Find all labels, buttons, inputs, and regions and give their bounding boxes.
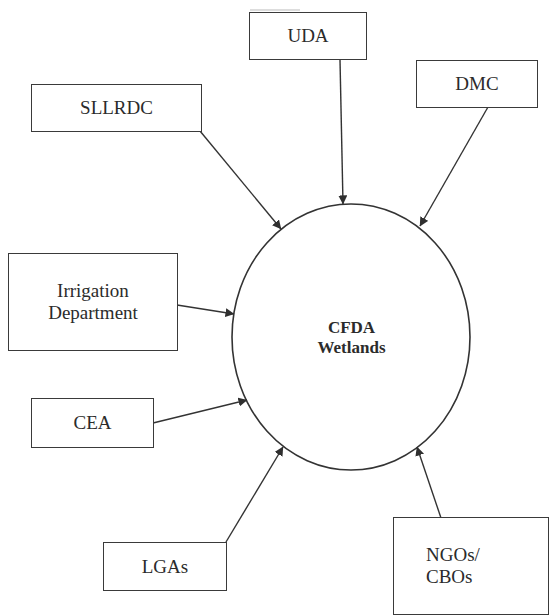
node-irrigation-label-line2: Department	[48, 302, 138, 324]
node-ngos-label-line1: NGOs/	[426, 544, 480, 566]
node-uda: UDA	[249, 12, 367, 60]
node-irrigation-label-line1: Irrigation	[57, 280, 129, 302]
node-ngos-label-line2: CBOs	[426, 566, 472, 588]
node-ngos-cbos: NGOs/ CBOs	[393, 517, 549, 615]
node-uda-label: UDA	[287, 25, 328, 47]
node-sllrdc-label: SLLRDC	[80, 97, 153, 119]
node-sllrdc: SLLRDC	[31, 84, 202, 132]
hub-label-line1: CFDA	[328, 318, 375, 338]
arrow-irrigation-to-hub	[177, 305, 234, 314]
node-dmc-label: DMC	[455, 73, 498, 95]
node-lgas: LGAs	[103, 542, 227, 591]
node-dmc: DMC	[416, 60, 538, 108]
node-lgas-label: LGAs	[142, 556, 188, 578]
hub-label-line2: Wetlands	[317, 338, 385, 358]
node-cea: CEA	[31, 398, 154, 448]
hub-label-cfda-wetlands: CFDA Wetlands	[232, 204, 471, 471]
arrow-uda-to-hub	[340, 60, 343, 204]
node-cea-label: CEA	[74, 412, 112, 434]
node-irrigation-department: Irrigation Department	[8, 253, 178, 351]
